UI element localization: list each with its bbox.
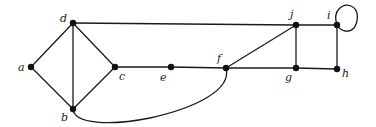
label-a: a — [18, 61, 25, 74]
edge-g-h — [296, 68, 337, 69]
node-f — [223, 65, 229, 71]
node-c — [112, 64, 118, 70]
edge-f-j — [226, 25, 296, 68]
label-e: e — [160, 71, 167, 84]
edge-a-b — [31, 67, 73, 109]
edges — [31, 5, 357, 122]
node-i — [334, 22, 340, 28]
edge-b-c — [73, 67, 115, 109]
label-d: d — [60, 12, 67, 25]
edge-d-j — [73, 23, 296, 25]
node-b — [70, 106, 76, 112]
label-f: f — [216, 52, 223, 65]
node-e — [168, 64, 174, 70]
node-d — [70, 20, 76, 26]
label-j: j — [287, 8, 294, 21]
edge-d-c — [73, 23, 115, 67]
label-g: g — [285, 71, 292, 84]
label-b: b — [61, 111, 68, 124]
edge-b-f-curve — [73, 68, 227, 123]
nodes — [28, 20, 340, 112]
graph-diagram: a b c d e f g h i j — [0, 0, 376, 127]
node-g — [293, 65, 299, 71]
label-i: i — [327, 9, 331, 22]
node-j — [293, 22, 299, 28]
edge-a-d — [31, 23, 73, 67]
label-h: h — [342, 67, 349, 80]
node-h — [334, 66, 340, 72]
label-c: c — [119, 70, 125, 83]
node-a — [28, 64, 34, 70]
edge-e-f — [171, 67, 226, 68]
